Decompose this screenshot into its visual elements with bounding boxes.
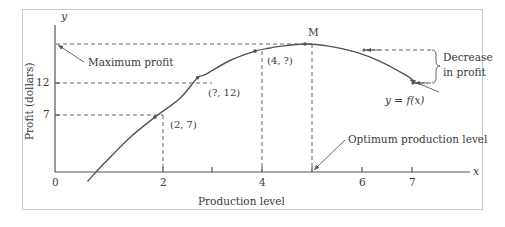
y-axis-name: y <box>61 11 67 22</box>
point-label-q-12: (?, 12) <box>208 88 240 98</box>
x-tick-label-4: 4 <box>259 177 266 188</box>
arrow-maximum-profit <box>58 45 84 62</box>
annotation-maximum-profit: Maximum profit <box>88 57 174 68</box>
x-tick-label-6: 6 <box>359 177 366 188</box>
chart-svg <box>0 0 505 227</box>
point-4-q <box>253 49 257 53</box>
x-tick-label-7: 7 <box>409 177 416 188</box>
arrow-optimum-production-level <box>314 140 345 170</box>
x-axis-title: Production level <box>198 196 285 207</box>
point-label-4-q: (4, ?) <box>267 56 293 66</box>
function-label: y = f(x) <box>385 95 424 106</box>
point-x6 <box>362 48 365 51</box>
data-points-group <box>153 42 414 119</box>
y-tick-label-12: 12 <box>36 77 49 88</box>
x-axis-name: x <box>473 166 479 177</box>
annotation-decrease-line2: in profit <box>443 67 486 78</box>
annotation-optimum-production-level: Optimum production level <box>348 134 487 145</box>
figure-container: y x Profit (dollars) Production level 0 … <box>0 0 505 227</box>
point-label-2-7: (2, 7) <box>170 120 197 130</box>
y-axis-title: Profit (dollars) <box>24 62 35 140</box>
y-tick-label-7: 7 <box>43 109 50 120</box>
x-tick-label-2: 2 <box>160 177 167 188</box>
point-q-12 <box>196 76 200 80</box>
annotation-decrease-line1: Decrease <box>443 52 493 63</box>
point-m-maximum <box>303 42 307 46</box>
decrease-brace <box>432 50 440 83</box>
point-2-7 <box>153 115 157 119</box>
point-label-m: M <box>308 27 319 38</box>
x-tick-label-0: 0 <box>52 177 59 188</box>
